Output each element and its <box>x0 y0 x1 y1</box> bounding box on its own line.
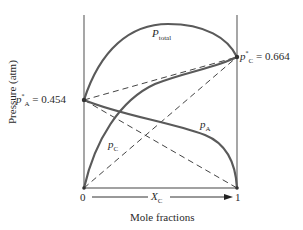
end-point <box>235 186 239 190</box>
p-c-label: pC <box>108 138 118 153</box>
ideal-total-line <box>84 57 237 100</box>
pc-star-label: p*C = 0.664 <box>240 50 290 65</box>
ideal-pa-line <box>84 100 237 188</box>
p-a-label: pA <box>200 118 211 133</box>
x-tick-0: 0 <box>80 191 86 203</box>
x-tick-1: 1 <box>235 191 241 203</box>
pc-star-point <box>235 55 239 59</box>
origin-point <box>82 186 86 190</box>
x-variable-label: XC <box>151 190 162 205</box>
x-axis-label: Mole fractions <box>130 211 194 223</box>
pa-star-label: p*A = 0.454 <box>16 93 66 108</box>
p-total-label: Ptotal <box>152 27 171 42</box>
arrow-head-icon <box>224 194 233 200</box>
pa-star-point <box>82 98 86 102</box>
